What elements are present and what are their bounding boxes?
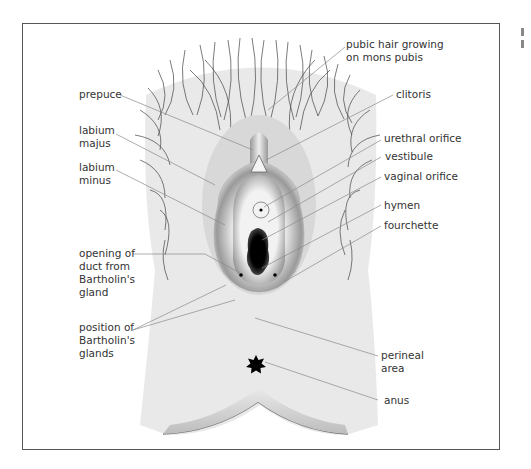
label-line: Bartholin's [79,334,135,347]
label-clitoris: clitoris [396,88,431,101]
label-urethral-orifice: urethral orifice [384,132,461,145]
label-line: minus [79,174,115,187]
label-line: duct from [79,260,135,273]
label-line: area [381,362,424,375]
urethral-orifice-dot [259,208,262,211]
label-labium-majus: labium majus [79,124,115,150]
label-line: gland [79,286,135,299]
bartholin-duct-opening-left [239,273,243,277]
label-pubic-hair: pubic hair growing on mons pubis [346,38,444,64]
label-bartholin-glands: position of Bartholin's glands [79,321,135,360]
label-vaginal-orifice: vaginal orifice [384,170,458,183]
label-line: anus [384,394,409,407]
page-edge-mark [521,40,524,48]
label-bartholin-duct: opening of duct from Bartholin's gland [79,247,135,299]
label-line: prepuce [79,88,122,101]
label-line: urethral orifice [384,132,461,145]
label-line: perineal [381,349,424,362]
label-prepuce: prepuce [79,88,122,101]
bartholin-duct-opening-right [273,273,277,277]
label-line: labium [79,124,115,137]
label-labium-minus: labium minus [79,161,115,187]
label-line: vaginal orifice [384,170,458,183]
label-vestibule: vestibule [385,150,433,163]
label-anus: anus [384,394,409,407]
label-line: Bartholin's [79,273,135,286]
label-perineal-area: perineal area [381,349,424,375]
label-line: fourchette [384,219,438,232]
label-line: vestibule [385,150,433,163]
label-line: pubic hair growing [346,38,444,51]
label-line: glands [79,347,135,360]
label-line: clitoris [396,88,431,101]
label-line: majus [79,137,115,150]
label-line: labium [79,161,115,174]
label-hymen: hymen [384,199,420,212]
label-fourchette: fourchette [384,219,438,232]
vaginal-orifice-shape [247,228,269,275]
label-line: on mons pubis [346,51,444,64]
vulva-illustration [0,0,531,469]
page-edge-mark [521,28,524,36]
label-line: hymen [384,199,420,212]
label-line: position of [79,321,135,334]
label-line: opening of [79,247,135,260]
